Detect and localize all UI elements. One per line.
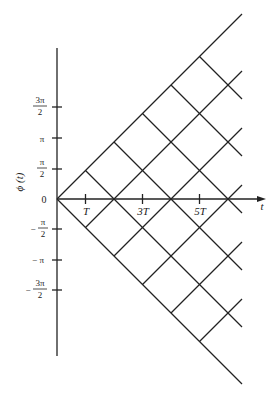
rising-path-2: [114, 128, 242, 256]
falling-path-4: [171, 85, 242, 156]
x-axis-label: t: [260, 200, 264, 212]
rising-path-1: [86, 71, 243, 228]
tick-zero: 0: [42, 194, 47, 205]
tick-neg-3pi-over-2-num: 3π: [35, 278, 45, 288]
tick-pi: π: [40, 134, 45, 144]
grid-lines: [52, 14, 260, 384]
tick-T: T: [83, 205, 90, 217]
tick-neg-pi-over-2-num: π: [41, 217, 46, 227]
tick-pi-over-2-den: 2: [40, 169, 45, 179]
rising-path-3: [143, 185, 243, 285]
tick-3pi-over-2-num: 3π: [35, 95, 45, 105]
rising-path-4: [171, 242, 242, 313]
tick-neg-pi: − π: [32, 255, 44, 265]
tick-pi-over-2-num: π: [40, 157, 45, 167]
tick-3T: 3T: [136, 205, 150, 217]
tick-neg-3pi-over-2-den: 2: [38, 290, 43, 300]
tick-3pi-over-2-den: 2: [38, 107, 43, 117]
falling-path-1: [86, 171, 243, 328]
tick-neg-sign-2: −: [25, 285, 30, 295]
upper-envelope-line: [57, 14, 242, 199]
tick-neg-pi-over-2-den: 2: [41, 229, 46, 239]
tick-neg-sign: −: [30, 224, 35, 234]
lower-envelope-line: [57, 199, 242, 384]
phase-trellis-diagram: 3π 2 π π 2 0 − π 2 − π − 3π 2 T 3T 5T t …: [0, 0, 273, 395]
tick-5T: 5T: [194, 205, 207, 217]
y-axis-label: ϕ (t): [13, 172, 26, 191]
falling-path-3: [143, 114, 243, 214]
falling-path-2: [114, 142, 242, 270]
y-tick-labels: 3π 2 π π 2 0 − π 2 − π − 3π 2: [25, 95, 48, 300]
